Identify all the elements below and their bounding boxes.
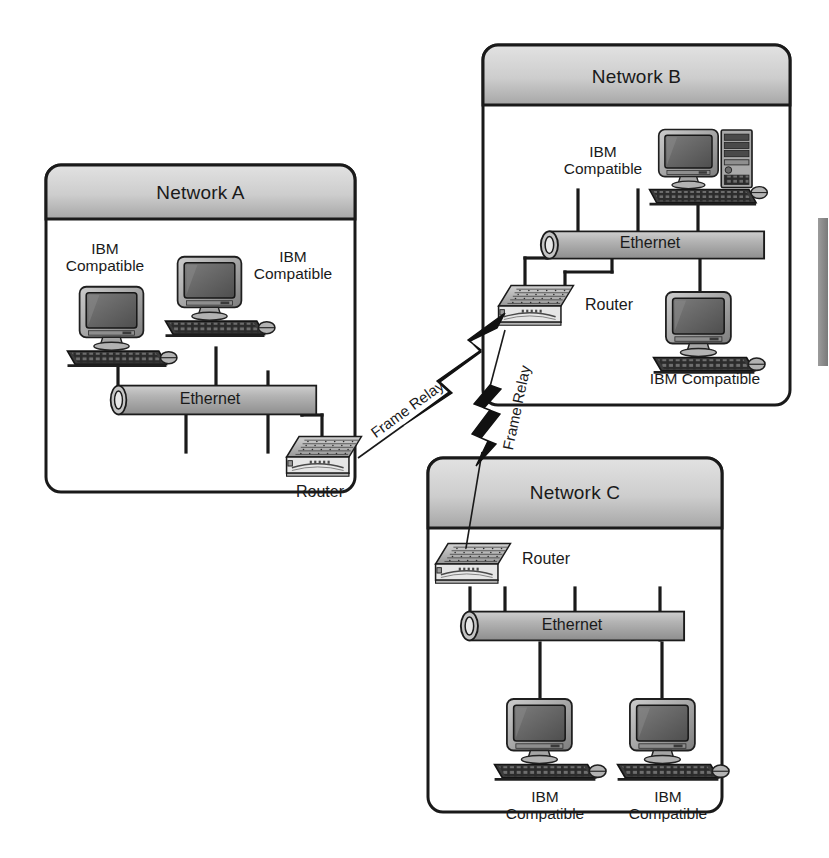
network-b-host-1-label: IBM Compatible [556, 143, 650, 178]
network-b-host-2-label: IBM Compatible [620, 370, 790, 387]
network-c-router-label: Router [522, 550, 632, 568]
network-a-title: Network A [46, 182, 355, 203]
page-edge-marker [818, 218, 828, 366]
network-c-ethernet-label: Ethernet [512, 616, 632, 634]
diagram-vector-layer [0, 0, 829, 858]
network-a-router-label: Router [265, 483, 375, 501]
network-b-ethernet-label: Ethernet [590, 234, 710, 252]
network-c-host-2-label: IBM Compatible [621, 788, 715, 823]
network-b-host-1[interactable] [650, 130, 768, 206]
network-c-host-1-label: IBM Compatible [498, 788, 592, 823]
network-diagram-canvas: Network A IBM Compatible IBM Compatible … [0, 0, 829, 858]
network-c-title: Network C [428, 482, 722, 503]
network-a-host-2-label: IBM Compatible [246, 248, 340, 283]
network-b-title: Network B [483, 66, 790, 87]
network-a-ethernet-label: Ethernet [150, 390, 270, 408]
network-a-host-1-label: IBM Compatible [58, 240, 152, 275]
network-b-router-label: Router [585, 296, 695, 314]
